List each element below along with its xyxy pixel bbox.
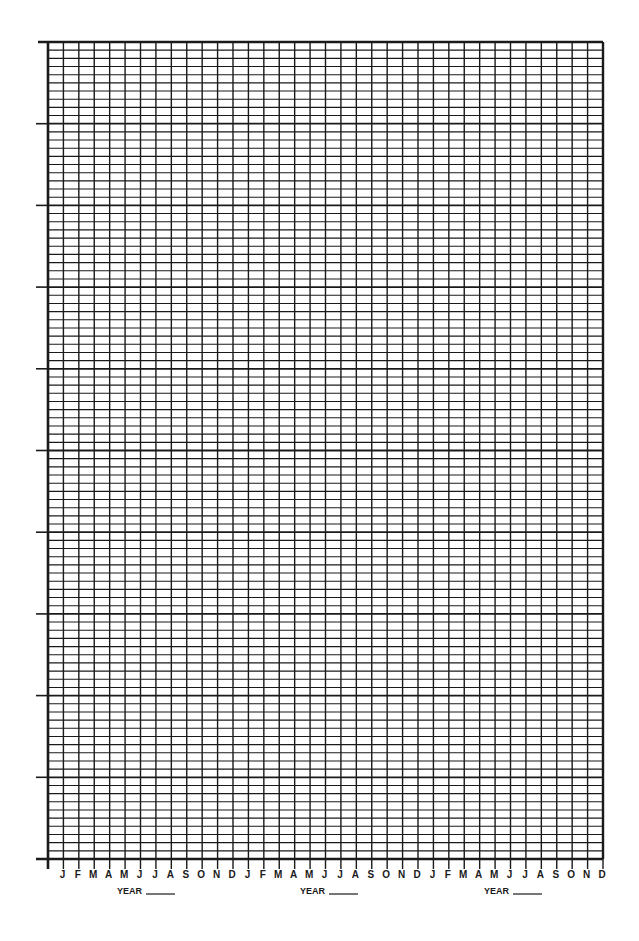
month-label: A <box>105 869 112 880</box>
month-label: F <box>445 869 451 880</box>
month-label: O <box>197 869 205 880</box>
month-label: N <box>213 869 220 880</box>
month-label: S <box>552 869 559 880</box>
year-labels: YEARYEARYEAR <box>117 886 542 896</box>
month-label: D <box>598 869 605 880</box>
month-label: D <box>228 869 235 880</box>
month-label: J <box>507 869 513 880</box>
month-label: A <box>475 869 482 880</box>
month-label: J <box>60 869 66 880</box>
x-axis-month-labels: JFMAMJJASONDJFMAMJJASONDJFMAMJJASOND <box>60 869 606 880</box>
month-label: N <box>583 869 590 880</box>
year-label: YEAR <box>300 886 326 896</box>
month-label: A <box>352 869 359 880</box>
month-label: N <box>398 869 405 880</box>
month-label: M <box>490 869 498 880</box>
month-label: D <box>413 869 420 880</box>
month-label: J <box>137 869 143 880</box>
month-label: M <box>89 869 97 880</box>
year-label: YEAR <box>117 886 143 896</box>
graph-paper-chart: JFMAMJJASONDJFMAMJJASONDJFMAMJJASOND YEA… <box>0 0 639 941</box>
month-label: J <box>245 869 251 880</box>
month-label: M <box>459 869 467 880</box>
month-label: A <box>290 869 297 880</box>
month-label: J <box>152 869 158 880</box>
month-label: J <box>430 869 436 880</box>
month-label: M <box>120 869 128 880</box>
month-label: S <box>182 869 189 880</box>
x-axis-month-ticks <box>63 859 603 869</box>
month-label: O <box>567 869 575 880</box>
month-label: A <box>167 869 174 880</box>
month-label: S <box>367 869 374 880</box>
month-label: O <box>382 869 390 880</box>
month-label: F <box>75 869 81 880</box>
year-label: YEAR <box>484 886 510 896</box>
month-label: F <box>260 869 266 880</box>
month-label: M <box>305 869 313 880</box>
month-label: J <box>322 869 328 880</box>
y-axis-major-ticks <box>36 124 48 778</box>
month-label: M <box>274 869 282 880</box>
month-label: J <box>337 869 343 880</box>
month-label: A <box>537 869 544 880</box>
month-label: J <box>522 869 528 880</box>
